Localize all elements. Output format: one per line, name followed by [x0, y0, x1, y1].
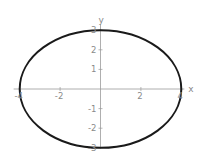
- x-axis-label: x: [188, 84, 194, 94]
- y-tick-label: -3: [88, 143, 96, 153]
- y-tick-label: 3: [91, 25, 96, 35]
- y-tick-label: 2: [91, 45, 96, 55]
- y-tick-label: -1: [88, 104, 96, 114]
- x-tick-label: 4: [178, 91, 183, 101]
- y-axis-label: y: [99, 15, 105, 25]
- tick-labels: -4-224-3-2-1123xy: [14, 15, 194, 152]
- ellipse-plot: -4-224-3-2-1123xy: [0, 0, 205, 157]
- x-tick-label: -4: [14, 91, 22, 101]
- x-tick-label: -2: [55, 91, 63, 101]
- y-tick-label: 1: [91, 64, 96, 74]
- x-tick-label: 2: [137, 91, 142, 101]
- y-tick-label: -2: [88, 123, 96, 133]
